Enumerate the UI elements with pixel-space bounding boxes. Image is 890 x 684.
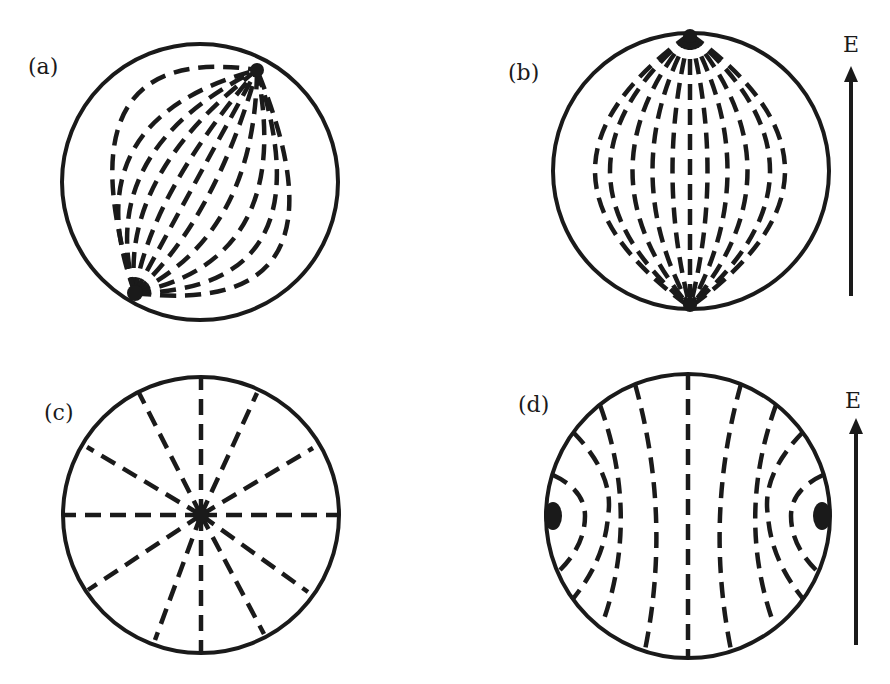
panel-label-a: (a) (28, 54, 58, 79)
pole-defect-a-bottom (127, 285, 143, 301)
field-label-e-d: E (845, 388, 861, 413)
pole-defect-a-top (250, 63, 264, 77)
arrow-head-icon (849, 418, 863, 434)
field-lines-a (112, 67, 289, 296)
surface-defect-left (544, 502, 562, 530)
pole-defect-b-bottom (683, 298, 697, 312)
panel-label-c: (c) (44, 400, 74, 425)
panel-d: (d) E (518, 374, 863, 658)
arrow-head-icon (844, 66, 858, 82)
field-lines-d (553, 374, 823, 658)
field-label-e-b: E (843, 32, 859, 57)
sphere-outline-d (546, 374, 830, 658)
point-defect-c (193, 507, 209, 523)
panel-c: (c) (44, 377, 339, 653)
pole-defect-b-top (683, 29, 697, 43)
panel-label-d: (d) (518, 392, 549, 417)
field-lines-b (595, 34, 785, 307)
figure-canvas: (a) (b) (0, 0, 890, 684)
panel-b: (b) E (508, 29, 859, 312)
surface-defect-right (813, 502, 831, 530)
sphere-outline-a (62, 44, 338, 320)
panel-label-b: (b) (508, 60, 539, 85)
panel-a: (a) (28, 44, 338, 320)
